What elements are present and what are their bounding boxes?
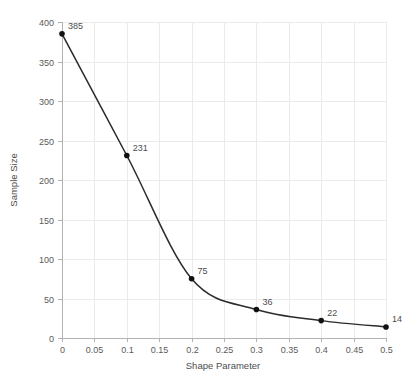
x-axis-tick-label: 0.2 — [186, 345, 199, 355]
y-axis-tick-label: 0 — [49, 334, 54, 344]
y-axis-tick-label: 150 — [39, 216, 54, 226]
data-point-label: 36 — [262, 297, 272, 307]
x-axis-tick-label: 0.3 — [250, 345, 263, 355]
x-axis-tick-label: 0.15 — [151, 345, 169, 355]
y-axis-title: Sample Size — [8, 153, 19, 206]
x-axis-tick-label: 0.25 — [216, 345, 234, 355]
y-axis-tick-label: 300 — [39, 97, 54, 107]
data-point-label: 14 — [392, 314, 402, 324]
data-point-marker — [189, 276, 195, 282]
data-point-marker — [59, 31, 65, 37]
y-axis-tick-label: 200 — [39, 176, 54, 186]
x-axis-tick-label: 0.5 — [380, 345, 393, 355]
y-axis-tick-label: 350 — [39, 58, 54, 68]
y-axis-tick-label: 50 — [44, 295, 54, 305]
chart-container: 050100150200250300350400 00.050.10.150.2… — [0, 0, 409, 376]
data-point-marker — [318, 318, 324, 324]
data-point-label: 385 — [68, 21, 83, 31]
sample-size-vs-shape-parameter-chart: 050100150200250300350400 00.050.10.150.2… — [0, 0, 409, 376]
y-axis-tick-label: 100 — [39, 255, 54, 265]
x-axis-tick-label: 0 — [60, 345, 65, 355]
data-point-marker — [124, 153, 130, 159]
data-point-marker — [254, 307, 260, 313]
x-axis-tick-label: 0.1 — [121, 345, 134, 355]
x-axis-tick-label: 0.35 — [281, 345, 299, 355]
data-point-label: 75 — [198, 266, 208, 276]
y-axis-tick-label: 400 — [39, 18, 54, 28]
data-point-label: 22 — [327, 308, 337, 318]
x-axis-tick-label: 0.45 — [346, 345, 364, 355]
x-axis-tick-label: 0.05 — [86, 345, 104, 355]
data-point-label: 231 — [133, 143, 148, 153]
data-point-marker — [383, 324, 389, 330]
x-axis-title: Shape Parameter — [186, 360, 260, 371]
y-axis-tick-label: 250 — [39, 137, 54, 147]
chart-background — [0, 0, 409, 376]
x-axis-tick-label: 0.4 — [315, 345, 328, 355]
